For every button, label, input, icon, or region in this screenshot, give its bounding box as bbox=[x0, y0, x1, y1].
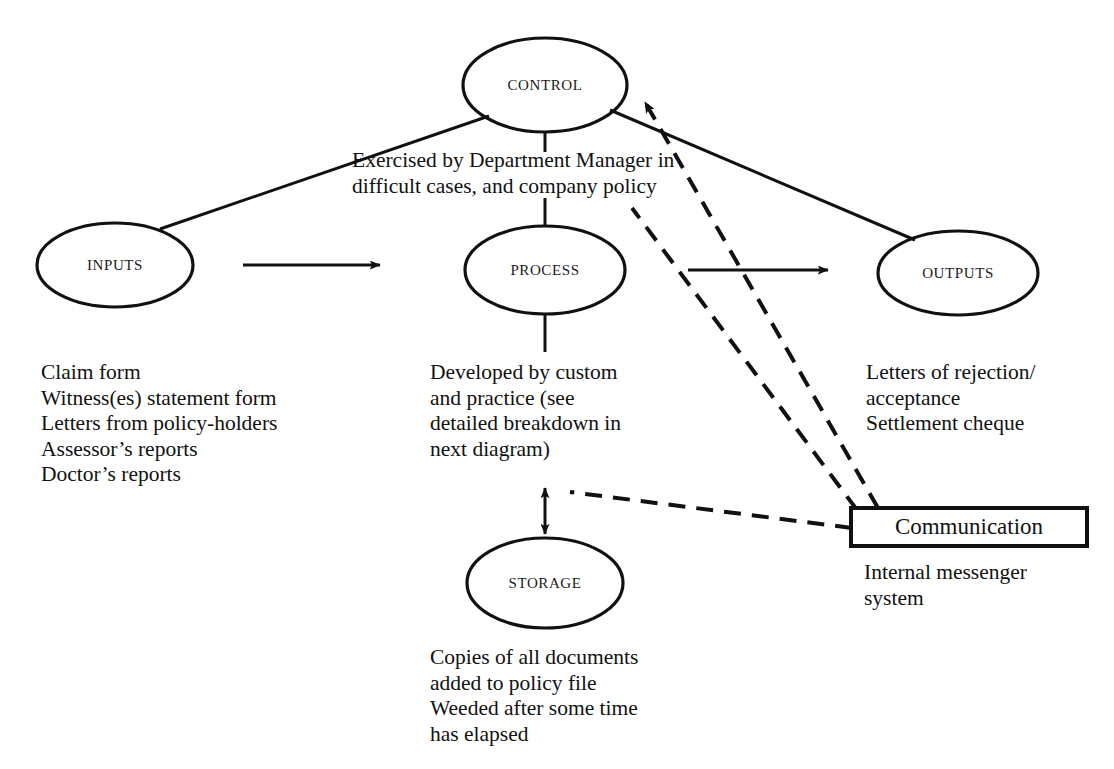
connector-dashed-communication-to-storage-link bbox=[570, 492, 852, 528]
caption-communication-note: Internal messenger system bbox=[864, 560, 1027, 611]
caption-outputs-list: Letters of rejection/ acceptance Settlem… bbox=[866, 360, 1036, 437]
caption-control-note: Exercised by Department Manager in diffi… bbox=[352, 148, 674, 199]
connector-dashed-communication-to-process bbox=[632, 208, 857, 510]
node-ellipse-inputs bbox=[37, 223, 193, 307]
caption-process-note: Developed by custom and practice (see de… bbox=[430, 360, 621, 462]
caption-storage-note: Copies of all documents added to policy … bbox=[430, 645, 638, 747]
node-ellipse-process bbox=[465, 226, 625, 314]
connector-dashed-communication-to-control bbox=[645, 102, 878, 508]
node-ellipse-outputs bbox=[878, 231, 1038, 315]
caption-inputs-list: Claim form Witness(es) statement form Le… bbox=[41, 360, 277, 488]
node-ellipse-storage bbox=[467, 538, 623, 628]
diagram-canvas: CONTROL INPUTS PROCESS OUTPUTS STORAGE C… bbox=[0, 0, 1114, 769]
node-label-communication: Communication bbox=[895, 514, 1043, 540]
